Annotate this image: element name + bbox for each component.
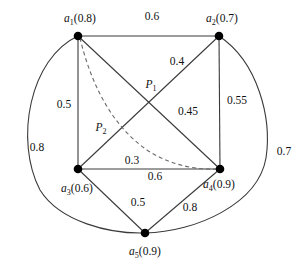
point-label-p2: P2	[95, 122, 106, 136]
node-label-a1: a1(0.8)	[64, 13, 96, 27]
edge-weight-a3-a4: 0.6	[148, 171, 162, 183]
edge-weight-a2-a3: 0.4	[170, 56, 184, 68]
edge-weight-a1-a4: 0.45	[178, 106, 198, 118]
node-label-a4: a4(0.9)	[203, 179, 235, 193]
node-a4-dot[interactable]	[216, 165, 225, 174]
edge-weight-a1-a4-dashed: 0.3	[125, 155, 139, 167]
point-label-p1: P1	[145, 79, 156, 93]
edge-weight-a2-a4: 0.55	[227, 95, 247, 107]
edge-weight-a1-a5-outer: 0.8	[30, 142, 44, 154]
node-a5-dot[interactable]	[141, 229, 150, 238]
graph-canvas	[0, 0, 305, 268]
node-label-a3: a3(0.6)	[61, 183, 93, 197]
edge-weight-a4-a5: 0.8	[183, 202, 197, 214]
edge-weight-a1-a2: 0.6	[145, 11, 159, 23]
graph-figure: a1(0.8) a2(0.7) a3(0.6) a4(0.9) a5(0.9) …	[0, 0, 305, 268]
node-label-a2: a2(0.7)	[206, 13, 238, 27]
node-a1-dot[interactable]	[74, 32, 83, 41]
node-label-a5: a5(0.9)	[129, 246, 161, 260]
edge-a1-a5-outer-curve	[28, 36, 145, 233]
node-a3-dot[interactable]	[74, 165, 83, 174]
node-a2-dot[interactable]	[215, 32, 224, 41]
edge-weight-a2-a5-outer: 0.7	[277, 146, 291, 158]
edge-a2-a4-line	[219, 36, 220, 169]
edge-weight-a3-a5: 0.5	[131, 197, 145, 209]
edge-a2-a5-outer-curve	[145, 36, 267, 233]
edge-weight-a1-a3: 0.5	[57, 99, 71, 111]
